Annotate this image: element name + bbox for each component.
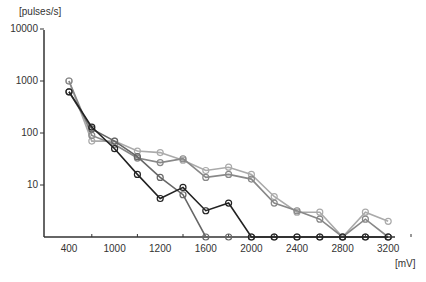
data-point-marker — [66, 89, 72, 95]
x-tick-label: 1200 — [140, 243, 180, 254]
x-axis-title: [mV] — [395, 258, 416, 269]
series-series-1 — [66, 78, 391, 240]
x-tick-label: 3200 — [368, 243, 408, 254]
y-tick-label: 10000 — [0, 23, 38, 34]
data-point-marker — [385, 218, 391, 224]
x-tick-label: 2800 — [323, 243, 363, 254]
series-series-2 — [66, 78, 391, 240]
y-tick-label: 1000 — [0, 75, 38, 86]
x-tick-label: 400 — [49, 243, 89, 254]
x-tick-label: 1600 — [186, 243, 226, 254]
x-tick-label: 2400 — [277, 243, 317, 254]
y-tick-label: 10 — [0, 179, 38, 190]
series-line — [69, 81, 388, 237]
y-axis-title: [pulses/s] — [19, 6, 61, 17]
data-series — [66, 78, 391, 240]
x-tick-label: 1000 — [95, 243, 135, 254]
y-tick-label: 100 — [0, 127, 38, 138]
line-chart — [0, 0, 426, 282]
series-line — [69, 81, 388, 237]
x-tick-label: 2000 — [231, 243, 271, 254]
